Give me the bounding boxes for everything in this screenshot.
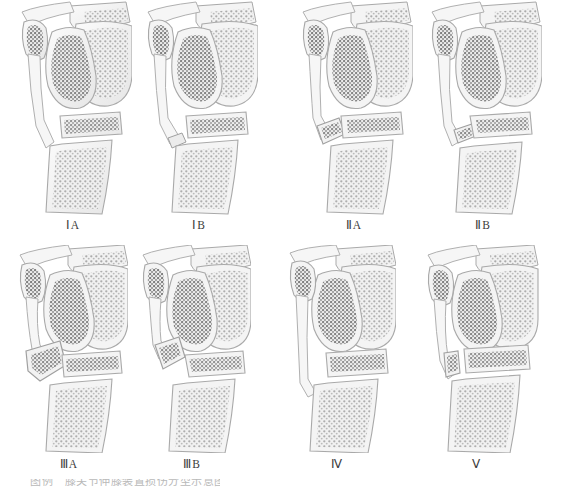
knee-illustration-1a	[14, 0, 132, 215]
panel-1a: ⅠA	[14, 0, 132, 245]
knee-illustration-4	[278, 245, 396, 453]
panel-2a: ⅡA	[295, 0, 413, 245]
panel-3b: ⅢB	[133, 245, 251, 490]
panel-label-5: Ⅴ	[414, 457, 539, 471]
knee-illustration-3a	[10, 245, 128, 453]
panel-5: Ⅴ	[414, 245, 539, 490]
panel-label-3a: ⅢA	[10, 457, 128, 471]
panel-label-2b: ⅡB	[424, 218, 542, 232]
panel-3a: ⅢA	[10, 245, 128, 490]
figure-row-1: ⅠA	[0, 0, 577, 245]
panel-1b: ⅠB	[140, 0, 258, 245]
figure-sheet: ⅠA	[0, 0, 577, 490]
knee-illustration-3b	[133, 245, 251, 453]
knee-illustration-2a	[295, 0, 413, 215]
figure-caption-text: 图例 膝关节伸膝装置损伤分型示意图	[30, 479, 220, 488]
panel-label-2a: ⅡA	[295, 218, 413, 232]
figure-row-2: ⅢA	[0, 245, 577, 490]
panel-label-3b: ⅢB	[133, 457, 251, 471]
panel-label-1a: ⅠA	[14, 218, 132, 232]
panel-2b: ⅡB	[424, 0, 542, 245]
figure-caption-clipped: 图例 膝关节伸膝装置损伤分型示意图	[30, 479, 220, 490]
knee-illustration-1b	[140, 0, 258, 215]
knee-illustration-2b	[424, 0, 542, 215]
panel-4: Ⅳ	[278, 245, 396, 490]
panel-label-4: Ⅳ	[278, 457, 396, 471]
knee-illustration-5	[414, 245, 539, 453]
panel-label-1b: ⅠB	[140, 218, 258, 232]
